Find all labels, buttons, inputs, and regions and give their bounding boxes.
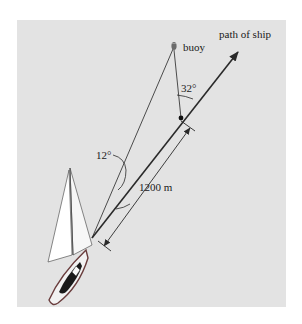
diagram-svg (0, 0, 302, 324)
sight-line-ship-to-buoy (92, 49, 173, 238)
path-of-ship-label: path of ship (219, 29, 271, 40)
angle-12-label: 12° (96, 150, 111, 161)
ship-path-arrow (92, 52, 238, 238)
distance-label: 1200 m (139, 182, 172, 193)
sight-line-point-to-buoy (174, 50, 181, 118)
angle-32-label: 32° (181, 83, 196, 94)
observation-point (179, 116, 184, 121)
buoy-icon (171, 42, 176, 50)
sailboat-icon (48, 168, 92, 304)
buoy-label: buoy (183, 42, 205, 53)
